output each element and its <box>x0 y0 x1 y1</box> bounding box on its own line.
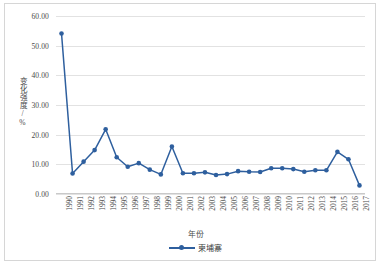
data-point <box>258 170 263 175</box>
series-line-chart <box>56 16 365 194</box>
data-point <box>192 171 197 176</box>
x-axis-tick-label: 2013 <box>318 196 327 211</box>
y-axis-tick-label: 20.00 <box>31 130 49 139</box>
data-point <box>313 168 318 173</box>
x-axis-tick-label: 2015 <box>340 196 349 211</box>
x-axis-tick-label: 1990 <box>65 196 74 211</box>
data-point <box>335 150 340 155</box>
data-point <box>114 155 119 160</box>
data-point <box>125 164 130 169</box>
data-point <box>324 168 329 173</box>
x-axis-tick-label: 2011 <box>296 196 305 211</box>
x-axis-tick-labels: 1990199119921993199419951996199719981999… <box>56 196 365 226</box>
plot-area <box>56 16 365 194</box>
data-point <box>225 172 230 177</box>
data-point <box>92 148 97 153</box>
data-point <box>70 171 75 176</box>
data-point <box>148 167 153 172</box>
data-point <box>203 170 208 175</box>
data-point <box>103 127 108 132</box>
x-axis-tick-label: 2000 <box>175 196 184 211</box>
y-axis-tick-label: 60.00 <box>31 12 49 21</box>
chart-legend: 柬埔寨 <box>5 242 381 253</box>
x-axis-tick-label: 2004 <box>219 196 228 211</box>
y-axis-tick-label: 40.00 <box>31 71 49 80</box>
x-axis-tick-label: 1994 <box>109 196 118 211</box>
data-point <box>214 173 219 178</box>
x-axis-tick-label: 2007 <box>252 196 261 211</box>
data-point <box>59 31 64 36</box>
x-axis-tick-label: 2008 <box>263 196 272 211</box>
data-point <box>357 183 362 188</box>
x-axis-tick-label: 2003 <box>208 196 217 211</box>
data-point <box>269 166 274 171</box>
legend-line-marker-icon <box>169 244 195 251</box>
y-axis-tick-label: 30.00 <box>31 101 49 110</box>
y-axis-tick-label: 10.00 <box>31 160 49 169</box>
x-axis-tick-label: 2006 <box>241 196 250 211</box>
x-axis-tick-label: 1993 <box>98 196 107 211</box>
data-point <box>81 159 86 164</box>
data-point <box>136 161 141 166</box>
x-axis-tick-label: 1995 <box>120 196 129 211</box>
y-axis-tick-label: 50.00 <box>31 41 49 50</box>
chart-container: 变化强度/% 0.0010.0020.0030.0040.0050.0060.0… <box>4 3 376 261</box>
x-axis-tick-label: 1991 <box>76 196 85 211</box>
x-axis-tick-label: 1999 <box>164 196 173 211</box>
data-point <box>247 169 252 174</box>
data-point <box>280 166 285 171</box>
x-axis-tick-label: 2014 <box>329 196 338 211</box>
legend-label: 柬埔寨 <box>198 242 222 253</box>
x-axis-tick-label: 2010 <box>285 196 294 211</box>
data-point <box>170 144 175 149</box>
y-axis-tick-labels: 0.0010.0020.0030.0040.0050.0060.00 <box>5 16 53 194</box>
data-point <box>236 169 241 174</box>
x-axis-tick-label: 2016 <box>351 196 360 211</box>
x-axis-tick-label: 1997 <box>142 196 151 211</box>
x-axis-tick-label: 2009 <box>274 196 283 211</box>
data-point <box>302 169 307 174</box>
data-point <box>181 171 186 176</box>
x-axis-tick-label: 2001 <box>186 196 195 211</box>
x-axis-tick-label: 2005 <box>230 196 239 211</box>
x-axis-tick-label: 2017 <box>362 196 371 211</box>
data-point <box>346 157 351 162</box>
data-point <box>159 172 164 177</box>
x-axis-title: 年份 <box>5 228 381 239</box>
x-axis-tick-label: 1996 <box>131 196 140 211</box>
series-line <box>62 34 360 186</box>
x-axis-tick-label: 1992 <box>87 196 96 211</box>
x-axis-tick-label: 1998 <box>153 196 162 211</box>
y-axis-tick-label: 0.00 <box>35 190 49 199</box>
data-point <box>291 167 296 172</box>
x-axis-tick-label: 2012 <box>307 196 316 211</box>
x-axis-tick-label: 2002 <box>197 196 206 211</box>
